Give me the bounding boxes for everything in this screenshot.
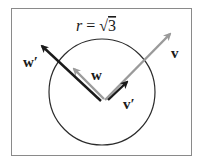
label-w-prime: w′ — [23, 54, 38, 70]
label-v-prime: v′ — [123, 96, 135, 112]
radius-label: r = √3 — [76, 17, 116, 34]
label-w: w — [91, 67, 102, 83]
vector-rotation-diagram: r = √3 w′ w v v′ — [0, 0, 201, 160]
label-v: v — [171, 45, 179, 61]
